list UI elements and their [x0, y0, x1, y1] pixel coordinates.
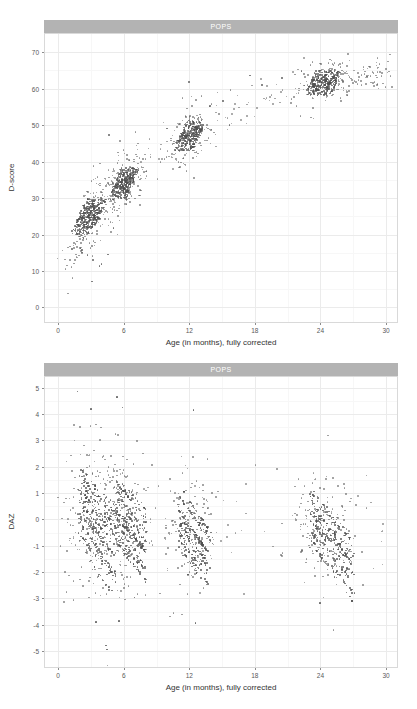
- data-point: [376, 77, 378, 79]
- data-point: [317, 92, 319, 94]
- data-point: [309, 535, 311, 537]
- data-point: [255, 464, 257, 466]
- data-point: [111, 590, 113, 592]
- y-tick-label: -2: [20, 569, 39, 576]
- data-point: [110, 528, 112, 530]
- data-point: [95, 424, 97, 426]
- data-point: [169, 478, 171, 480]
- data-point: [245, 483, 247, 485]
- data-point: [382, 523, 384, 525]
- data-point: [340, 97, 342, 99]
- data-point: [238, 107, 240, 109]
- data-point: [351, 592, 353, 594]
- data-point: [280, 91, 282, 93]
- data-point: [185, 134, 187, 136]
- data-point: [97, 470, 99, 472]
- data-point: [70, 509, 72, 511]
- data-point: [185, 148, 187, 150]
- data-point: [102, 580, 104, 582]
- data-point: [83, 469, 85, 471]
- data-point: [124, 599, 126, 601]
- data-point: [313, 85, 315, 87]
- data-point: [89, 217, 91, 219]
- data-point: [161, 158, 163, 160]
- data-point: [124, 519, 126, 521]
- data-point: [125, 190, 127, 192]
- data-point: [231, 552, 233, 554]
- data-point: [323, 552, 325, 554]
- data-point: [75, 512, 77, 514]
- data-point: [192, 128, 194, 130]
- data-point: [126, 154, 128, 156]
- data-point: [110, 549, 112, 551]
- data-point: [334, 62, 336, 64]
- data-point: [320, 63, 322, 65]
- data-point: [70, 524, 72, 526]
- data-point: [117, 525, 119, 527]
- data-point: [87, 501, 89, 503]
- data-point: [130, 545, 132, 547]
- data-point: [121, 504, 123, 506]
- data-point: [344, 583, 346, 585]
- data-point: [210, 513, 212, 515]
- data-point: [387, 61, 389, 63]
- y-tick-mark: [42, 467, 44, 468]
- data-point: [346, 592, 348, 594]
- plot-dscore: POPS 0612182430 010203040506070 Age (in …: [0, 0, 417, 355]
- data-point: [87, 482, 89, 484]
- data-point: [72, 525, 74, 527]
- data-point: [98, 568, 100, 570]
- data-point: [310, 514, 312, 516]
- data-point: [311, 537, 313, 539]
- data-point: [310, 90, 312, 92]
- data-point: [334, 89, 336, 91]
- data-point: [145, 516, 147, 518]
- data-point: [145, 551, 147, 553]
- data-point: [260, 78, 262, 80]
- data-point: [99, 163, 101, 165]
- data-point: [92, 259, 94, 261]
- data-point: [94, 224, 96, 226]
- data-point: [98, 523, 100, 525]
- x-axis-title-daz: Age (in months), fully corrected: [166, 683, 277, 692]
- data-point: [373, 72, 375, 74]
- data-point: [306, 515, 308, 517]
- data-point: [184, 563, 186, 565]
- data-point: [93, 552, 95, 554]
- data-point: [125, 184, 127, 186]
- data-point: [183, 157, 185, 159]
- data-point: [119, 140, 121, 142]
- data-point: [144, 567, 146, 569]
- data-point: [132, 498, 134, 500]
- data-point: [135, 533, 137, 535]
- data-point: [130, 576, 132, 578]
- data-point: [340, 538, 342, 540]
- data-point: [314, 534, 316, 536]
- data-point: [196, 536, 198, 538]
- data-point: [293, 96, 295, 98]
- data-point: [158, 485, 160, 487]
- data-point: [351, 562, 353, 564]
- data-point: [195, 551, 197, 553]
- data-point: [114, 209, 116, 211]
- data-point: [204, 578, 206, 580]
- data-point: [339, 566, 341, 568]
- data-point: [137, 149, 139, 151]
- data-point: [205, 530, 207, 532]
- data-point: [127, 556, 129, 558]
- data-point: [361, 74, 363, 76]
- data-point: [134, 512, 136, 514]
- data-point: [69, 259, 71, 261]
- data-point: [316, 76, 318, 78]
- data-point: [139, 552, 141, 554]
- data-point: [314, 90, 316, 92]
- data-point: [139, 573, 141, 575]
- data-point: [243, 593, 245, 595]
- data-point: [382, 83, 384, 85]
- data-point: [73, 580, 75, 582]
- data-point: [106, 518, 108, 520]
- data-point: [321, 72, 323, 74]
- data-point: [133, 563, 135, 565]
- data-point: [189, 141, 191, 143]
- data-point: [84, 219, 86, 221]
